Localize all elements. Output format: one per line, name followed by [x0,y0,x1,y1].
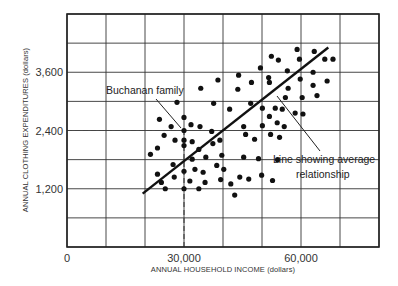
data-point [148,152,153,157]
data-point [300,95,305,100]
data-point [286,86,291,91]
data-point [260,106,265,111]
data-point [236,73,241,78]
data-point [170,162,175,167]
annotation-pointers [156,96,320,151]
data-point [214,163,219,168]
data-point [243,132,248,137]
data-point [219,153,224,158]
data-point [232,192,237,197]
data-point [276,58,281,63]
data-point [172,175,177,180]
data-point [174,100,179,105]
data-point [237,175,242,180]
data-point [282,124,287,129]
data-point [155,172,160,177]
y-axis-ticks: 1,2002,4003,600 [35,66,63,195]
data-point [217,138,222,143]
data-point [310,70,315,75]
data-point [260,123,265,128]
data-point [241,124,246,129]
data-point [300,111,305,116]
data-point [280,107,285,112]
data-point [269,54,274,59]
data-point [295,47,300,52]
data-point [192,167,197,172]
annotation-average-line-2: relationship [296,168,350,180]
data-point [266,75,271,80]
data-point [203,155,208,160]
y-tick-label: 3,600 [35,66,63,78]
data-point [312,49,317,54]
data-point [241,155,246,160]
data-point [181,186,186,191]
data-point [268,132,273,137]
data-point [210,141,215,146]
data-point [181,138,186,143]
data-point [162,133,167,138]
y-axis-label: ANNUAL CLOTHING EXPENDITURES (dollars) [21,47,30,212]
data-point [181,143,186,148]
data-point [221,167,226,172]
annotation-average-line: Line showing average [273,153,375,165]
data-point [259,173,264,178]
data-point [196,186,201,191]
data-point [181,128,186,133]
x-axis-label: ANNUAL HOUSEHOLD INCOME (dollars) [151,265,296,274]
data-point [273,106,278,111]
data-point [249,80,254,85]
scatter-chart: 1,2002,4003,600 030,00060,000 ANNUAL HOU… [0,0,398,286]
data-point [267,80,272,85]
data-point [270,178,275,183]
data-point [252,137,257,142]
average-line-pointer [277,96,320,151]
x-axis-ticks: 030,00060,000 [64,252,318,264]
data-point [188,122,193,127]
data-point [258,65,263,70]
data-point [155,145,160,150]
data-point [285,68,290,73]
data-point [310,83,315,88]
x-tick-label: 0 [64,252,70,264]
annotation-buchanan-family: Buchanan family [106,84,184,96]
data-point [211,101,216,106]
data-point [275,120,280,125]
data-point [172,138,177,143]
data-point [227,107,232,112]
data-point [169,124,174,129]
data-point [228,181,233,186]
data-point [283,95,288,100]
data-point [246,176,251,181]
data-point [209,129,214,134]
x-tick-label: 30,000 [167,252,201,264]
data-point [325,78,330,83]
y-tick-label: 1,200 [35,183,63,195]
data-point [218,177,223,182]
data-point [181,169,186,174]
data-point [330,57,335,62]
x-tick-label: 60,000 [284,252,318,264]
data-point [277,135,282,140]
data-point [235,87,240,92]
data-point [202,180,207,185]
data-point [298,76,303,81]
data-point [157,117,162,122]
data-point [201,170,206,175]
data-point [248,101,253,106]
data-point [197,124,202,129]
data-point [314,93,319,98]
data-point [256,156,261,161]
data-point [181,115,186,120]
data-point [163,186,168,191]
data-point [198,86,203,91]
data-point [322,57,327,62]
data-point [267,114,272,119]
data-point [215,77,220,82]
data-point [297,57,302,62]
y-tick-label: 2,400 [35,125,63,137]
data-point [190,139,195,144]
data-point [187,178,192,183]
data-point [293,110,298,115]
